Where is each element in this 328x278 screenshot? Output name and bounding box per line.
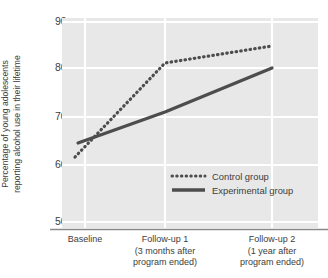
x-tick-label-followup-1: Follow-up 1 (3 months after program ende…	[115, 234, 215, 269]
x-tick-followup-2-line-1: Follow-up 2	[222, 234, 322, 246]
plot-background	[62, 18, 318, 228]
x-tick-followup-2-line-2: (1 year after	[222, 246, 322, 258]
x-tick-followup-1-line-1: Follow-up 1	[115, 234, 215, 246]
chart-figure: Percentage of young adolescents reportin…	[0, 0, 328, 278]
x-tick-followup-2-line-3: program ended)	[222, 257, 322, 269]
legend-label-control-group: Control group	[212, 171, 269, 182]
x-tick-followup-1-line-3: program ended)	[115, 257, 215, 269]
legend-label-experimental-group: Experimental group	[212, 185, 293, 196]
x-tick-label-followup-2: Follow-up 2 (1 year after program ended)	[222, 234, 322, 269]
x-tick-followup-1-line-2: (3 months after	[115, 246, 215, 258]
